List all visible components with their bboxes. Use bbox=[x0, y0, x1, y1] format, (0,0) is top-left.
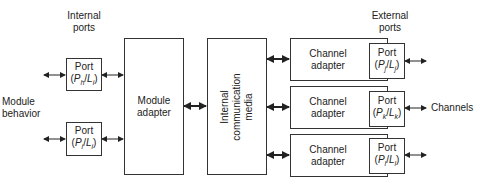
internal-ports-label: Internal ports bbox=[64, 10, 104, 34]
channel-adapter-line2: adapter bbox=[291, 60, 365, 72]
port-params: (Pj/Lj) bbox=[370, 59, 404, 75]
port-title: Port bbox=[370, 95, 404, 107]
port-params: (Ph/Li) bbox=[67, 73, 101, 89]
channel-adapter-line2: adapter bbox=[291, 156, 365, 168]
external-port-k: Port (Pk/Lk) bbox=[369, 91, 405, 127]
external-ports-label: External ports bbox=[368, 10, 412, 34]
port-title: Port bbox=[370, 142, 404, 154]
port-params: (Pk/Lk) bbox=[370, 107, 404, 123]
internal-ports-label-line1: Internal bbox=[64, 10, 104, 22]
channel-adapter-line1: Channel bbox=[291, 96, 365, 108]
internal-media-line3: media bbox=[243, 73, 255, 140]
module-behavior-label-line1: Module bbox=[2, 96, 50, 108]
internal-communication-media-box: Internal communication media bbox=[207, 38, 267, 175]
external-ports-label-line1: External bbox=[368, 10, 412, 22]
internal-ports-label-line2: ports bbox=[64, 22, 104, 34]
external-port-l: Port (Pl/Ll) bbox=[369, 138, 405, 174]
port-title: Port bbox=[67, 125, 101, 137]
port-params: (Pi/Li) bbox=[67, 137, 101, 153]
channel-adapter-line1: Channel bbox=[291, 144, 365, 156]
module-adapter-box: Module adapter bbox=[124, 38, 184, 175]
external-port-j: Port (Pj/Lj) bbox=[369, 43, 405, 79]
module-adapter-line1: Module bbox=[125, 95, 183, 107]
port-title: Port bbox=[370, 47, 404, 59]
internal-media-label: Internal communication media bbox=[219, 73, 255, 140]
port-title: Port bbox=[67, 61, 101, 73]
port-params: (Pl/Ll) bbox=[370, 154, 404, 170]
external-ports-label-line2: ports bbox=[368, 22, 412, 34]
internal-port-i: Port (Pi/Li) bbox=[66, 122, 102, 156]
internal-port-h: Port (Ph/Li) bbox=[66, 58, 102, 91]
channel-adapter-line1: Channel bbox=[291, 48, 365, 60]
internal-media-line2: communication bbox=[231, 73, 243, 140]
internal-media-line1: Internal bbox=[219, 73, 231, 140]
module-behavior-label: Module behavior bbox=[2, 96, 50, 120]
channel-adapter-line2: adapter bbox=[291, 108, 365, 120]
module-adapter-line2: adapter bbox=[125, 107, 183, 119]
module-behavior-label-line2: behavior bbox=[2, 108, 50, 120]
channels-label: Channels bbox=[431, 102, 473, 114]
